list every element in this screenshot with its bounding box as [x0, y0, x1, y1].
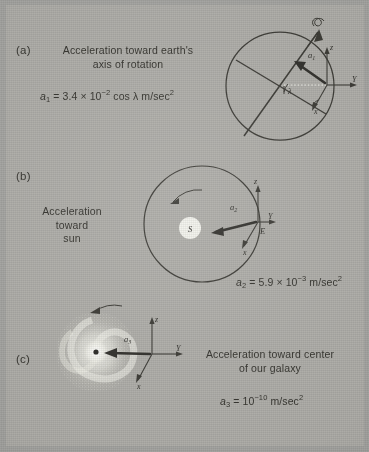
panel-c-galaxy-diagram: z Y x a3 — [52, 296, 192, 426]
axis-z-arrowhead — [149, 317, 154, 324]
axis-x-label: x — [313, 107, 318, 116]
axis-z-arrowhead — [255, 185, 260, 192]
panel-c-caption-line1: Acceleration toward center — [186, 348, 354, 362]
earth-label: E — [259, 226, 266, 236]
axis-Y-label: Y — [268, 212, 274, 221]
axis-z-label: z — [154, 315, 159, 324]
orbit-direction-arrowhead — [170, 198, 179, 204]
panel-a-caption-line1: Acceleration toward earth's — [38, 44, 218, 58]
axis-z-label: z — [329, 43, 334, 52]
panel-c-caption: Acceleration toward center of our galaxy — [186, 348, 354, 375]
panel-b-caption: Acceleration toward sun — [22, 205, 122, 246]
panel-a-label: (a) — [16, 44, 31, 56]
earth-rotation-axis — [244, 32, 318, 136]
earth-orbit-circle — [144, 166, 260, 282]
panel-b-caption-line1: Acceleration — [22, 205, 122, 219]
axis-Y-label: Y — [352, 75, 358, 84]
panel-a-equation: a1 = 3.4 × 10−2 cos λ m/sec2 — [40, 88, 174, 104]
panel-c-label: (c) — [16, 353, 30, 365]
panel-c-caption-line2: of our galaxy — [186, 362, 354, 376]
panel-b-caption-line2: toward — [22, 219, 122, 233]
acceleration-vector-a1-label: a1 — [308, 50, 315, 61]
figure-container: (a) Acceleration toward earth's axis of … — [0, 0, 369, 452]
panel-a-caption: Acceleration toward earth's axis of rota… — [38, 44, 218, 71]
panel-a-caption-line2: axis of rotation — [38, 58, 218, 72]
galaxy-nucleus-dot — [93, 349, 98, 354]
panel-b-label: (b) — [16, 170, 31, 182]
axis-x-label: x — [136, 382, 141, 391]
lambda-angle-label: λ — [287, 86, 292, 96]
acceleration-vector-a2-label: a2 — [230, 202, 237, 213]
axis-z-arrowhead — [324, 47, 329, 54]
earth-spin-curl-icon — [313, 18, 324, 26]
axis-z-label: z — [253, 177, 258, 186]
panel-a-earth-diagram: z Y x a1 λ — [222, 14, 362, 154]
axis-x-label: x — [242, 248, 247, 257]
panel-b-caption-line3: sun — [22, 232, 122, 246]
axis-Y-label: Y — [176, 344, 182, 353]
panel-c-equation: a3 = 10−10 m/sec2 — [220, 393, 303, 409]
panel-b-orbit-diagram: S z Y x E a2 — [140, 160, 275, 290]
acceleration-vector-a2-arrowhead — [211, 227, 224, 236]
